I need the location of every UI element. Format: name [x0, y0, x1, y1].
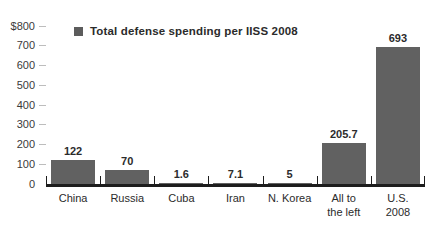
y-axis-tick-label: $800	[11, 20, 35, 31]
bar-value-label: 693	[389, 32, 407, 44]
x-axis-label: N. Korea	[263, 192, 317, 206]
y-axis-tick-dash	[39, 65, 46, 66]
bar-group: 70	[100, 26, 154, 184]
x-axis-label: China	[46, 192, 100, 206]
bar-group: 205.7	[317, 26, 371, 184]
bar-value-label: 70	[121, 155, 133, 167]
y-axis-tick-dash	[39, 105, 46, 106]
x-axis-label: Russia	[100, 192, 154, 206]
bar-value-label: 122	[64, 145, 82, 157]
x-axis-label-line: N. Korea	[263, 192, 317, 206]
bar-group: 7.1	[208, 26, 262, 184]
y-axis-tick-dash	[39, 124, 46, 125]
x-axis-label: All tothe left	[317, 192, 371, 219]
bar-group: 693	[371, 26, 425, 184]
y-axis-tick-label: 200	[17, 139, 35, 150]
x-axis-tick	[154, 176, 155, 184]
y-axis-tick-label: 700	[17, 40, 35, 51]
x-axis-tick	[317, 176, 318, 184]
y-axis-tick-label: 500	[17, 79, 35, 90]
x-axis-label-line: All to	[317, 192, 371, 206]
x-axis-label-line: Iran	[208, 192, 262, 206]
y-axis-tick-dash	[39, 45, 46, 46]
y-axis-tick-label: 600	[17, 60, 35, 71]
x-axis-labels: ChinaRussiaCubaIranN. KoreaAll tothe lef…	[46, 192, 425, 226]
defense-spending-bar-chart: Total defense spending per IISS 2008 $80…	[0, 0, 434, 227]
y-axis-tick-dash	[39, 26, 46, 27]
x-axis-label-line: U.S.	[371, 192, 425, 206]
y-axis-tick-dash	[39, 164, 46, 165]
x-axis-label: Iran	[208, 192, 262, 206]
y-axis-tick-label: 100	[17, 158, 35, 169]
bar	[376, 47, 420, 184]
bar-group: 122	[46, 26, 100, 184]
y-axis-tick-dash	[39, 85, 46, 86]
y-axis-tick-label: 300	[17, 119, 35, 130]
y-axis-tick-dash	[39, 184, 46, 185]
x-axis-tick	[263, 176, 264, 184]
x-axis-baseline	[46, 184, 425, 187]
y-axis-tick-label: 400	[17, 99, 35, 110]
x-axis-tick	[100, 176, 101, 184]
bars-container: 122701.67.15205.7693	[46, 26, 425, 184]
bar-value-label: 205.7	[330, 128, 358, 140]
x-axis-label-line: Cuba	[154, 192, 208, 206]
bar-group: 1.6	[154, 26, 208, 184]
x-axis-ticks	[46, 176, 425, 184]
x-axis-tick	[46, 176, 47, 184]
bar-group: 5	[263, 26, 317, 184]
x-axis-tick	[208, 176, 209, 184]
y-axis: $8007006005004003002001000	[0, 26, 46, 184]
x-axis-label-line: China	[46, 192, 100, 206]
x-axis-label-line: 2008	[371, 206, 425, 220]
y-axis-tick-dash	[39, 144, 46, 145]
x-axis-label: Cuba	[154, 192, 208, 206]
x-axis-tick	[424, 176, 425, 184]
x-axis-label-line: the left	[317, 206, 371, 220]
x-axis-tick	[371, 176, 372, 184]
x-axis-label: U.S.2008	[371, 192, 425, 219]
y-axis-tick-label: 0	[29, 178, 35, 189]
x-axis-label-line: Russia	[100, 192, 154, 206]
